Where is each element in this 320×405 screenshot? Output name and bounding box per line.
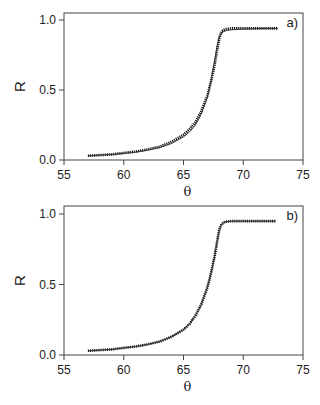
x-tick-label: 70 bbox=[237, 168, 251, 182]
x-tick-label: 55 bbox=[57, 168, 71, 182]
plot-frame-b bbox=[64, 206, 303, 355]
plot-lines-a bbox=[88, 28, 278, 155]
panel-label-b: b) bbox=[286, 208, 298, 223]
ticks-b: 55606570750.00.51.0 bbox=[39, 207, 310, 377]
ticks-a: 55606570750.00.51.0 bbox=[39, 13, 310, 182]
y-tick-label: 0.5 bbox=[39, 278, 56, 292]
y-tick-label: 1.0 bbox=[39, 207, 56, 221]
x-tick-label: 60 bbox=[117, 363, 131, 377]
x-axis-label-b: θ bbox=[184, 379, 192, 394]
x-tick-label: 60 bbox=[117, 168, 131, 182]
plot-lines-b bbox=[88, 221, 276, 351]
y-axis-label-b: R bbox=[11, 275, 28, 286]
figure: 55606570750.00.51.0 R θ a) 55606570750.0… bbox=[0, 0, 320, 405]
panel-b: 55606570750.00.51.0 R θ b) bbox=[11, 206, 310, 394]
data-series-dots bbox=[88, 221, 276, 351]
panel-label-a: a) bbox=[286, 15, 298, 30]
y-axis-label-a: R bbox=[11, 81, 28, 92]
y-tick-label: 0.5 bbox=[39, 83, 56, 97]
x-tick-label: 75 bbox=[296, 363, 310, 377]
y-tick-label: 0.0 bbox=[39, 153, 56, 167]
x-tick-label: 70 bbox=[237, 363, 251, 377]
data-series-line bbox=[88, 28, 278, 155]
y-tick-label: 0.0 bbox=[39, 348, 56, 362]
x-tick-label: 65 bbox=[177, 168, 191, 182]
x-tick-label: 65 bbox=[177, 363, 191, 377]
y-tick-label: 1.0 bbox=[39, 13, 56, 27]
x-tick-label: 75 bbox=[296, 168, 310, 182]
panel-a: 55606570750.00.51.0 R θ a) bbox=[11, 13, 310, 199]
plot-frame-a bbox=[64, 13, 303, 160]
x-axis-label-a: θ bbox=[184, 184, 192, 199]
x-tick-label: 55 bbox=[57, 363, 71, 377]
